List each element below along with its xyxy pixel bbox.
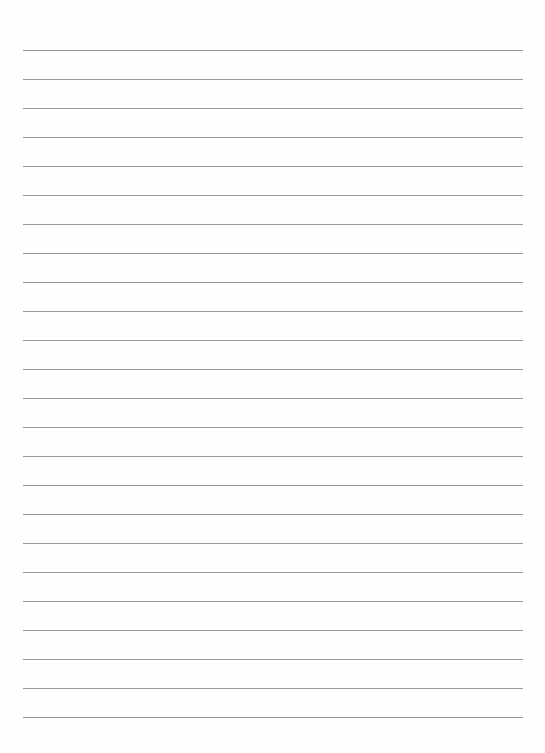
ruled-line [23, 630, 523, 631]
ruled-line [23, 688, 523, 689]
ruled-line [23, 311, 523, 312]
ruled-line [23, 224, 523, 225]
ruled-line [23, 282, 523, 283]
ruled-line [23, 137, 523, 138]
ruled-line [23, 253, 523, 254]
ruled-line [23, 79, 523, 80]
ruled-line [23, 427, 523, 428]
ruled-line [23, 166, 523, 167]
ruled-line [23, 659, 523, 660]
ruled-line [23, 456, 523, 457]
ruled-line [23, 340, 523, 341]
ruled-line [23, 485, 523, 486]
ruled-line [23, 601, 523, 602]
ruled-line [23, 369, 523, 370]
ruled-line [23, 717, 523, 718]
lined-paper-page [0, 0, 545, 753]
ruled-line [23, 398, 523, 399]
ruled-line [23, 514, 523, 515]
ruled-line [23, 50, 523, 51]
ruled-line [23, 572, 523, 573]
ruled-line [23, 195, 523, 196]
ruled-line [23, 543, 523, 544]
ruled-line [23, 108, 523, 109]
